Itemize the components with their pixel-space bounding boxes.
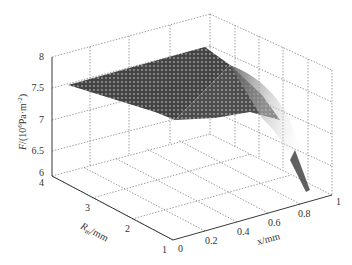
z-axis-ticks: 8 7.5 7 6.5 6 [32, 51, 45, 178]
svg-text:2: 2 [125, 223, 130, 234]
svg-text:8: 8 [39, 51, 44, 62]
x-axis-label: x/mm [256, 230, 282, 247]
svg-text:0: 0 [178, 243, 183, 254]
z-axis-label: F/(106Pa·m-2) [16, 94, 29, 151]
surface [68, 47, 310, 192]
surface-plot: 8 7.5 7 6.5 6 4 3 2 1 0 0.2 0.4 0.6 0.8 … [0, 0, 352, 265]
svg-text:1: 1 [336, 196, 341, 207]
svg-text:6.5: 6.5 [32, 145, 45, 156]
svg-text:7: 7 [39, 114, 44, 125]
svg-text:0.2: 0.2 [205, 235, 218, 246]
svg-text:3: 3 [85, 202, 90, 213]
r-axis-ticks: 4 3 2 1 [39, 177, 167, 255]
svg-text:0.6: 0.6 [268, 217, 281, 228]
svg-text:0.4: 0.4 [237, 226, 250, 237]
svg-text:0.8: 0.8 [298, 208, 311, 219]
svg-text:4: 4 [39, 177, 44, 188]
r-axis-label: Rm/mm [77, 220, 110, 246]
svg-text:1: 1 [162, 244, 167, 255]
svg-text:7.5: 7.5 [32, 82, 45, 93]
